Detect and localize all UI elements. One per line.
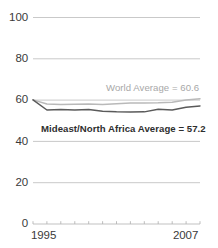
y-axis-tick-80: 80 (2, 52, 28, 64)
y-axis-tick-60: 60 (2, 93, 28, 105)
y-axis-tick-20: 20 (2, 176, 28, 188)
y-axis-tick-0: 0 (2, 217, 28, 229)
y-axis-tick-100: 100 (2, 11, 28, 23)
gridlines (33, 18, 200, 183)
x-axis-tick-1995: 1995 (31, 229, 56, 241)
world-average-annotation: World Average = 60.6 (106, 82, 199, 93)
x-axis (33, 221, 200, 224)
x-axis-tick-2007: 2007 (173, 229, 198, 241)
y-axis-tick-40: 40 (2, 135, 28, 147)
line-chart: 100 80 60 40 20 0 1995 2007 World Averag… (0, 0, 218, 248)
mideast-average-annotation: Mideast/North Africa Average = 57.2 (41, 123, 206, 134)
